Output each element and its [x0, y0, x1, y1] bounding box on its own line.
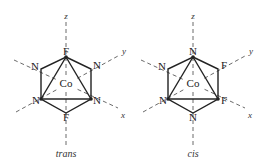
ligand-upper-right: N	[93, 59, 101, 71]
ligand-lower-right: N	[93, 94, 101, 106]
ligand-top: F	[63, 45, 69, 57]
ligand-lower-left: N	[159, 94, 167, 106]
octahedral-isomers-figure: Co F N N N N F z y x trans Co N N F N F …	[0, 0, 265, 162]
x-axis-label: x	[247, 110, 252, 120]
trans-caption: trans	[56, 148, 77, 159]
ligand-lower-right: F	[221, 94, 227, 106]
ligand-upper-right: F	[221, 59, 227, 71]
trans-isomer-diagram: Co F N N N N F z y x trans	[14, 11, 126, 159]
z-axis-label: z	[63, 11, 68, 21]
ligand-upper-left: N	[31, 60, 39, 72]
ligand-top: N	[189, 45, 197, 57]
ligand-lower-left: N	[32, 94, 40, 106]
cis-isomer-diagram: Co N N F N F N z y x cis	[141, 11, 253, 159]
center-atom-label: Co	[187, 77, 200, 89]
y-axis-label: y	[121, 46, 126, 56]
cis-caption: cis	[187, 148, 198, 159]
ligand-upper-left: N	[158, 60, 166, 72]
z-axis-label: z	[190, 11, 195, 21]
ligand-bottom: N	[189, 111, 197, 123]
ligand-bottom: F	[63, 111, 69, 123]
x-axis-label: x	[120, 110, 125, 120]
center-atom-label: Co	[60, 77, 73, 89]
y-axis-label: y	[248, 46, 253, 56]
